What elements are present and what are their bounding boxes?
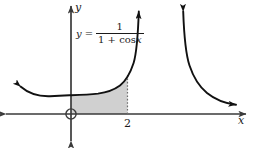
fraction-denominator: 1 + cosx (96, 34, 144, 45)
equation-fraction: 1 1 + cosx (96, 22, 144, 45)
function-graph-figure: y x 2 y = 1 1 + cosx (0, 0, 253, 148)
x-tick-label-2: 2 (124, 118, 131, 129)
x-axis-label: x (238, 115, 244, 126)
y-axis-label: y (75, 2, 81, 13)
denominator-lead-text: 1 + cos (98, 34, 136, 45)
equation-label: y = 1 1 + cosx (76, 22, 144, 45)
fraction-numerator: 1 (113, 22, 127, 33)
denominator-variable: x (136, 34, 142, 45)
curve-right-branch (183, 12, 236, 105)
equation-lhs: y (76, 29, 82, 39)
equation-equals-sign: = (85, 29, 93, 39)
